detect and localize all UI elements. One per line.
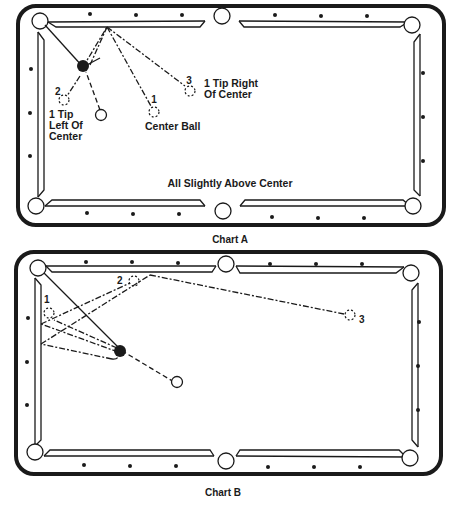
chart-b-shot-lines	[41, 273, 344, 382]
ball-2-number: 2	[55, 86, 61, 97]
ball-3-description-line2: Of Center	[204, 88, 252, 100]
chart-b-balls	[44, 276, 355, 388]
ball-1-number: 1	[44, 294, 50, 305]
chart-b-caption: Chart B	[205, 487, 241, 498]
ball-1-description: Center Ball	[145, 120, 201, 132]
pocket-bottom-left	[28, 198, 44, 214]
ball-2-description-line3: Center	[49, 130, 82, 142]
chart-a-table	[18, 6, 444, 225]
ball-3-number: 3	[186, 75, 192, 86]
diagram-canvas: 1 Center Ball 2 1 Tip Left Of Center 3 1…	[0, 0, 459, 510]
ball-3-number: 3	[359, 314, 365, 325]
chart-a-caption: Chart A	[212, 234, 248, 245]
object-ball	[77, 60, 89, 72]
chart-b-table	[16, 252, 441, 474]
cue-ball	[172, 377, 183, 388]
pockets	[27, 256, 419, 469]
pocket-top-right	[404, 17, 420, 33]
cue-ball	[96, 110, 107, 121]
ball-2-number: 2	[117, 275, 123, 286]
chart-a-labels: 1 Center Ball 2 1 Tip Left Of Center 3 1…	[49, 75, 293, 189]
pocket-bottom-left	[27, 444, 43, 460]
pocket-top-left	[30, 260, 46, 276]
pocket-bottom-center	[218, 453, 234, 469]
ghost-ball-1	[44, 308, 54, 318]
diamonds	[25, 260, 421, 469]
ghost-ball-3	[185, 86, 195, 96]
pocket-top-center	[214, 8, 230, 24]
pocket-bottom-right	[405, 198, 421, 214]
pocket-bottom-center	[215, 203, 231, 219]
chart-a-balls	[59, 60, 195, 121]
pocket-top-right	[403, 265, 419, 281]
ghost-ball-1	[149, 107, 159, 117]
ball-1-number: 1	[151, 94, 157, 105]
pocket-top-center	[218, 256, 234, 272]
pocket-bottom-right	[402, 450, 418, 466]
chart-a-note: All Slightly Above Center	[167, 177, 292, 189]
ghost-ball-3	[345, 310, 355, 320]
object-ball	[114, 345, 126, 357]
chart-a-shot-lines	[45, 25, 185, 110]
